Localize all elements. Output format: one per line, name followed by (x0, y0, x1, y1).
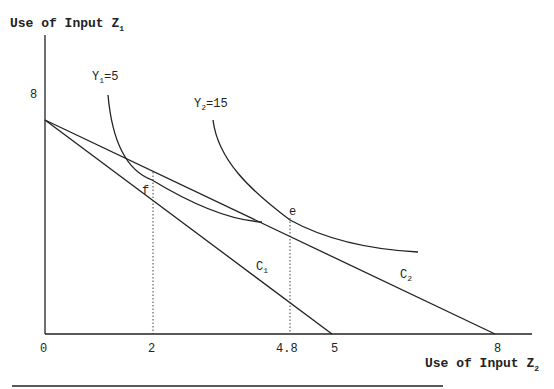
point-f-label: f (142, 184, 149, 198)
x-axis-label: Use of Input Z2 (425, 356, 539, 373)
x-tick-2: 2 (148, 342, 155, 356)
isoquant-y2-label: Y2=15 (194, 97, 228, 112)
budget-line-c2-label: C2 (400, 268, 412, 283)
y-tick-8: 8 (30, 88, 37, 102)
budget-line-c2 (45, 120, 495, 334)
point-e-label: e (289, 205, 296, 219)
isoquant-y2 (213, 120, 418, 252)
isoquant-y1 (108, 95, 262, 222)
isoquant-y1-label: Y1=5 (92, 70, 118, 85)
budget-line-c1-label: C1 (256, 260, 268, 275)
x-tick-0: 0 (40, 342, 47, 356)
x-tick-5: 5 (331, 342, 338, 356)
chart-canvas (0, 0, 554, 389)
x-tick-8: 8 (494, 342, 501, 356)
x-tick-4-8: 4.8 (276, 342, 298, 356)
y-axis-label: Use of Input Z1 (10, 16, 124, 33)
budget-line-c1 (45, 120, 332, 334)
